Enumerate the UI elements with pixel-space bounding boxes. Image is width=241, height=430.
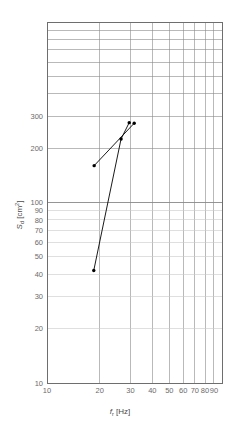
chart-container: 102030405060708090100200300 102030405060… (0, 0, 241, 430)
x-tick-20: 20 (96, 386, 104, 395)
y-tick-100: 100 (30, 198, 43, 207)
y-tick-90: 90 (35, 206, 43, 215)
major-gridlines (47, 22, 222, 383)
x-tick-40: 40 (148, 386, 156, 395)
x-tick-80: 80 (201, 386, 209, 395)
x-tick-10: 10 (43, 386, 51, 395)
y-tick-20: 20 (35, 324, 43, 333)
x-tick-90: 90 (210, 386, 218, 395)
y-tick-60: 60 (35, 238, 43, 247)
y-tick-70: 70 (35, 226, 43, 235)
y-tick-30: 30 (35, 292, 43, 301)
x-tick-70: 70 (191, 386, 199, 395)
y-tick-40: 40 (35, 270, 43, 279)
y-tick-10: 10 (35, 379, 43, 388)
y-tick-50: 50 (35, 252, 43, 261)
x-tick-50: 50 (165, 386, 173, 395)
x-tick-30: 30 (126, 386, 134, 395)
y-tick-200: 200 (30, 144, 43, 153)
log-log-plot: 102030405060708090100200300 102030405060… (0, 0, 241, 430)
y-tick-300: 300 (30, 112, 43, 121)
x-tick-60: 60 (179, 386, 187, 395)
y-tick-80: 80 (35, 216, 43, 225)
